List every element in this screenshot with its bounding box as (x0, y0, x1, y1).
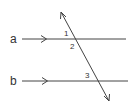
line-b-label: b (10, 74, 17, 88)
angle-2-label: 2 (70, 42, 75, 51)
diagram-svg: a b 1 2 3 (0, 0, 135, 105)
angle-1-label: 1 (64, 29, 69, 38)
transversal-line (61, 12, 110, 101)
line-a-label: a (10, 32, 17, 46)
diagram-canvas: a b 1 2 3 (0, 0, 135, 105)
line-b (22, 78, 128, 85)
angle-3-label: 3 (85, 71, 90, 80)
